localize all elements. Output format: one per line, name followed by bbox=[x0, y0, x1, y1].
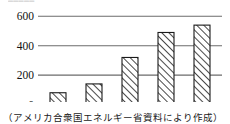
ytick-label-400: 400 bbox=[17, 40, 35, 52]
chart-svg: 600 400 200 0 2000 2005 2010 2015 2019 （… bbox=[0, 6, 230, 102]
top-text-remnant: ▬▬▬▬▬ bbox=[8, 0, 48, 3]
source-caption: （アメリカ合衆国エネルギー省資料により作成） bbox=[3, 112, 230, 123]
bar-2000 bbox=[50, 93, 66, 102]
ytick-label-0: 0 bbox=[28, 99, 34, 102]
bar-2005 bbox=[86, 84, 102, 102]
bars bbox=[50, 25, 210, 102]
ytick-label-600: 600 bbox=[17, 10, 35, 22]
chart-plot-area: 600 400 200 0 2000 2005 2010 2015 2019 （… bbox=[0, 6, 230, 102]
ytick-label-200: 200 bbox=[17, 69, 35, 81]
bar-2019 bbox=[194, 25, 210, 102]
bar-2015 bbox=[158, 32, 174, 102]
bar-chart-figure: ▬▬▬▬▬ 600 bbox=[0, 0, 230, 124]
y-axis-tick-labels: 600 400 200 0 bbox=[17, 10, 35, 102]
bar-2010 bbox=[122, 57, 138, 102]
